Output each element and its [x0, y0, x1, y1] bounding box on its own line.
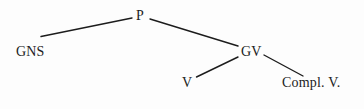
tree-node-gv: GV	[241, 45, 262, 59]
edge-gv-to-compl-v	[264, 55, 303, 76]
edge-p-to-gv	[150, 19, 238, 46]
tree-node-v: V	[182, 76, 192, 90]
tree-node-compl-v: Compl. V.	[282, 76, 340, 90]
edge-p-to-gns	[41, 18, 132, 37]
tree-edges-svg	[0, 0, 364, 109]
tree-node-gns: GNS	[16, 45, 45, 59]
syntax-tree-diagram: P GNS GV V Compl. V.	[0, 0, 364, 109]
edge-gv-to-v	[197, 57, 239, 77]
tree-node-p: P	[136, 9, 144, 23]
